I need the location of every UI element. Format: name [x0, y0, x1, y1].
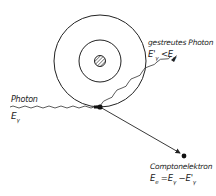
nucleus: [95, 56, 106, 67]
electron-marker: [94, 106, 98, 109]
incoming-photon-wave: [10, 106, 100, 108]
scattered-photon-energy: E'γ <Eγ: [148, 50, 176, 61]
electron-initial: [97, 104, 102, 109]
scattered-photon-wave: [100, 56, 171, 106]
compton-electron-label: Comptonelektron: [150, 163, 212, 171]
compton-electron-energy: Ee =Eγ −E'γ: [150, 174, 196, 185]
electron-trajectory: [100, 107, 180, 153]
electron-final: [182, 154, 187, 159]
incoming-photon-label: Photon: [11, 96, 38, 104]
scattered-photon-label: gestreutes Photon: [148, 39, 213, 47]
atom: [54, 15, 146, 107]
incoming-photon-energy: Eγ: [11, 112, 20, 123]
